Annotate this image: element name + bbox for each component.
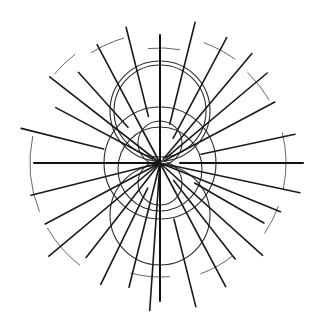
radial-line-diagram bbox=[0, 0, 320, 333]
